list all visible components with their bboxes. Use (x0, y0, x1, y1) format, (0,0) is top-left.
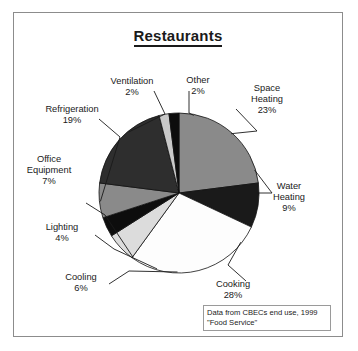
pie-label-lighting: Lighting 4% (31, 222, 93, 244)
leader-line-cooling (109, 271, 178, 284)
pie-slice-space-heating (179, 113, 258, 193)
pie-label-cooling: Cooling 6% (52, 272, 110, 294)
pie-label-refrigeration: Refrigeration 19% (29, 104, 115, 126)
source-note-line-1: Data from CBECs end use, 1999 (207, 308, 327, 318)
source-note-line-2: "Food Service" (207, 318, 327, 328)
pie-label-water-heating: Water Heating 9% (257, 181, 321, 214)
pie-label-other: Other 2% (173, 75, 223, 97)
pie-label-office-equipment: Office Equipment 7% (10, 154, 88, 187)
pie-label-ventilation: Ventilation 2% (96, 76, 168, 98)
pie-label-cooking: Cooking 28% (204, 279, 262, 301)
chart-frame: Restaurants Ventilation 2% Other 2% Spac… (13, 12, 343, 337)
pie-label-space-heating: Space Heating 23% (236, 83, 298, 116)
source-note: Data from CBECs end use, 1999 "Food Serv… (203, 305, 331, 331)
